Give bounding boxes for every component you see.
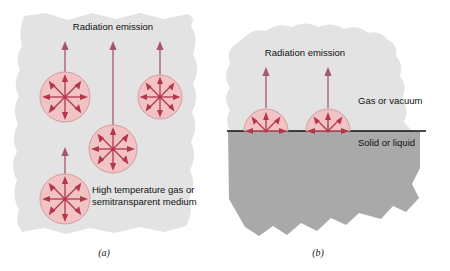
figure-canvas: Radiation emission High temperature gas … xyxy=(0,0,450,271)
panel-b: Radiation emission Gas or vacuum Solid o… xyxy=(226,24,426,260)
emitter-center xyxy=(89,125,137,173)
emitter-lower-left xyxy=(40,174,90,224)
panel-a: Radiation emission High temperature gas … xyxy=(13,13,197,259)
panel-b-solid-label: Solid or liquid xyxy=(358,137,415,148)
emitter-upper-left xyxy=(40,72,90,122)
panel-a-caption: (a) xyxy=(98,247,110,259)
panel-a-medium-label-line2: semitransparent medium xyxy=(92,196,197,207)
panel-b-caption: (b) xyxy=(312,247,324,259)
panel-a-emission-label: Radiation emission xyxy=(73,21,153,32)
panel-a-medium-label-line1: High temperature gas or xyxy=(92,184,194,195)
emitter-upper-right xyxy=(138,75,182,119)
panel-b-gas-label: Gas or vacuum xyxy=(358,95,422,106)
radiation-emission-figure: Radiation emission High temperature gas … xyxy=(0,0,450,271)
panel-b-emission-label: Radiation emission xyxy=(265,47,345,58)
